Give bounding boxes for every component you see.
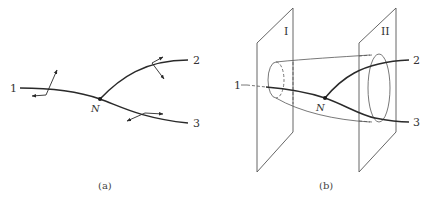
label-plane-i: I	[284, 25, 288, 38]
label-plane-ii: II	[381, 25, 390, 38]
label-2-b: 2	[413, 54, 420, 67]
label-n-b: N	[315, 102, 326, 113]
label-3-b: 3	[413, 116, 420, 129]
branch-2-arrows-icon	[152, 57, 164, 79]
branch-1-to-3-curve	[20, 88, 188, 123]
branch-n-to-2-curve	[100, 60, 188, 99]
label-2: 2	[193, 54, 200, 67]
diagram-canvas: 1 2 3 N (a)	[0, 0, 431, 205]
caption-b: (b)	[319, 180, 333, 191]
branch-1-to-3-curve-b	[266, 87, 409, 122]
panel-a: 1 2 3 N (a)	[10, 54, 200, 191]
node-n-dot-b	[323, 96, 327, 100]
caption-a: (a)	[98, 180, 112, 191]
label-1: 1	[10, 82, 17, 95]
label-n: N	[90, 103, 101, 114]
branch-3-arrows-icon	[127, 113, 163, 121]
plane-ii	[359, 8, 396, 172]
label-1-b: 1	[234, 79, 241, 92]
label-3: 3	[193, 117, 200, 130]
node-n-dot	[98, 97, 102, 101]
flux-tube	[268, 54, 390, 122]
branch-1-hidden-segment	[247, 85, 266, 87]
panel-b: I II 1 2 3 N (b)	[234, 8, 420, 191]
branch-1-arrows-icon	[32, 70, 57, 96]
